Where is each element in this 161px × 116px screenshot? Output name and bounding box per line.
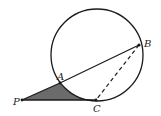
label-p: P	[12, 96, 20, 107]
point-a	[59, 82, 62, 85]
label-a: A	[56, 71, 64, 82]
circle	[51, 9, 143, 101]
diagram-canvas: P A B C	[0, 0, 161, 116]
label-c: C	[93, 103, 101, 114]
point-b	[137, 43, 140, 46]
point-p	[21, 99, 24, 102]
geometry-diagram: P A B C	[0, 0, 161, 116]
shaded-region-pac	[22, 83, 96, 100]
point-c	[95, 99, 98, 102]
segment-bc-dashed	[96, 45, 139, 100]
label-b: B	[143, 38, 151, 49]
segment-ab	[60, 45, 139, 83]
